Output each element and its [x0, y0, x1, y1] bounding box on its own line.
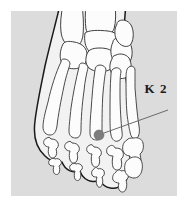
distal-phalanx-1-hallux	[125, 157, 143, 178]
bone-calcaneus-shadow	[61, 5, 84, 47]
foot-skeleton-illustration	[0, 0, 189, 208]
point-label-k2: K 2	[134, 81, 178, 97]
middle-phalanx-5	[49, 158, 62, 174]
figure-root: K 2	[0, 0, 189, 208]
acupoint-marker	[94, 130, 104, 140]
